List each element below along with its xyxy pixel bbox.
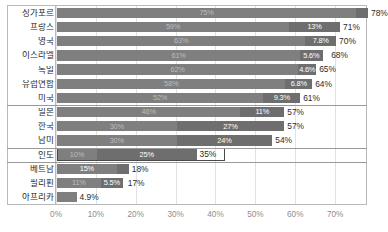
bar-area: 59%13%71% — [57, 20, 367, 34]
chart-row: 프랑스59%13%71% — [7, 20, 367, 34]
segment-2-value: 25% — [140, 151, 154, 158]
segment-1-value: 15% — [80, 165, 94, 172]
bar-segment-2: 27% — [177, 121, 285, 131]
stacked-bar[interactable]: 52%9.3% — [57, 93, 300, 103]
stacked-bar[interactable]: 75% — [57, 8, 368, 18]
bar-segment-2: 5.5% — [101, 178, 123, 188]
stacked-bar[interactable]: 30%24% — [57, 135, 272, 145]
segment-1-value: 63% — [174, 37, 188, 44]
segment-2-value: 24% — [217, 137, 231, 144]
row-total-value: 78% — [371, 9, 388, 17]
segment-1-value: 58% — [164, 80, 178, 87]
bar-segment-1: 30% — [57, 135, 177, 145]
bar-segment-1: 61% — [57, 50, 300, 60]
segment-2-value: 11% — [256, 108, 270, 115]
row-label-10: 인도 — [7, 151, 57, 160]
stacked-bar[interactable]: 61%5.6% — [57, 50, 328, 60]
row-total-value: 18% — [132, 165, 149, 173]
row-label-8: 한국 — [7, 122, 57, 131]
bar-segment-2: 24% — [177, 135, 273, 145]
chart-row: 이스라엘61%5.6%68% — [7, 49, 367, 63]
x-tick-70: 70% — [327, 211, 343, 219]
stacked-bar[interactable]: 46%11% — [57, 107, 284, 117]
row-label-13: 아프리카 — [7, 193, 57, 202]
bar-segment-1: 10% — [57, 149, 97, 159]
bar-area: 4.9% — [57, 190, 367, 204]
segment-1-value: 61% — [172, 52, 186, 59]
stacked-bar[interactable] — [57, 192, 77, 202]
row-label-4: 독일 — [7, 66, 57, 75]
segment-2-value: 6.8% — [291, 80, 307, 87]
row-total-value: 35% — [200, 150, 217, 158]
chart-row: 필리핀11%5.5%17% — [7, 176, 367, 190]
row-total-value: 57% — [287, 108, 304, 116]
segment-1-value: 62% — [171, 66, 185, 73]
stacked-bar[interactable]: 15% — [57, 164, 129, 174]
stacked-bar[interactable]: 30%27% — [57, 121, 284, 131]
bar-segment-1: 52% — [57, 93, 263, 103]
bar-area: 75%78% — [57, 6, 367, 20]
x-tick-30: 30% — [167, 211, 183, 219]
row-total-value: 54% — [275, 136, 292, 144]
stacked-bar[interactable]: 62%4.6% — [57, 64, 316, 74]
bar-area: 30%24%54% — [57, 134, 367, 148]
x-tick-10: 10% — [88, 211, 104, 219]
bar-segment-1: 46% — [57, 107, 240, 117]
chart-row: 독일62%4.6%65% — [7, 63, 367, 77]
bar-segment-2: 4.6% — [298, 64, 316, 74]
bar-segment-1: 30% — [57, 121, 177, 131]
row-label-2: 영국 — [7, 37, 57, 46]
bar-area: 62%4.6%65% — [57, 63, 367, 77]
x-axis: 0%10%20%30%40%50%60%70% — [56, 207, 366, 229]
segment-1-value: 30% — [110, 123, 124, 130]
bar-segment-2 — [356, 8, 368, 18]
segment-1-value: 75% — [199, 9, 213, 16]
group-separator — [7, 148, 367, 149]
chart-row: 한국30%27%57% — [7, 120, 367, 134]
bar-segment-1: 58% — [57, 79, 285, 89]
group-separator — [7, 105, 367, 106]
segment-2-value: 5.6% — [303, 52, 319, 59]
bar-segment-2: 25% — [97, 149, 197, 159]
bar-segment-1: 63% — [57, 36, 305, 46]
stacked-bar[interactable]: 63%7.8% — [57, 36, 336, 46]
stacked-bar[interactable]: 11%5.5% — [57, 178, 125, 188]
chart-row: 싱가포르75%78% — [7, 6, 367, 20]
stacked-bar[interactable]: 10%25% — [57, 149, 197, 159]
row-label-12: 필리핀 — [7, 179, 57, 188]
row-total-value: 57% — [287, 122, 304, 130]
stacked-bar[interactable]: 59%13% — [57, 22, 340, 32]
row-total-value: 70% — [339, 37, 356, 45]
row-total-value: 4.9% — [80, 193, 99, 201]
row-label-5: 유럽연합 — [7, 80, 57, 89]
segment-1-value: 11% — [72, 179, 86, 186]
bar-area: 30%27%57% — [57, 120, 367, 134]
segment-2-value: 13% — [307, 23, 321, 30]
bar-area: 46%11%57% — [57, 105, 367, 119]
row-total-value: 61% — [303, 94, 320, 102]
bar-segment-2: 7.8% — [305, 36, 336, 46]
bar-segment-1: 15% — [57, 164, 117, 174]
bar-area: 15%18% — [57, 162, 367, 176]
segment-2-value: 7.8% — [313, 37, 329, 44]
chart-row: 남미30%24%54% — [7, 134, 367, 148]
bar-segment-1: 59% — [57, 22, 289, 32]
x-tick-0: 0% — [50, 211, 62, 219]
x-tick-40: 40% — [207, 211, 223, 219]
chart-row: 유럽연합58%6.8%64% — [7, 77, 367, 91]
chart-row: 베트남15%18% — [7, 162, 367, 176]
row-total-value: 65% — [319, 65, 336, 73]
bar-segment-2: 6.8% — [285, 79, 312, 89]
chart-row: 미국52%9.3%61% — [7, 91, 367, 105]
bar-area: 11%5.5%17% — [57, 176, 367, 190]
bar-segment-2 — [117, 164, 129, 174]
chart-row: 일본46%11%57% — [7, 105, 367, 119]
x-tick-60: 60% — [287, 211, 303, 219]
bar-segment-2: 5.6% — [300, 50, 322, 60]
bar-area: 10%25%35% — [57, 148, 367, 162]
bar-area: 63%7.8%70% — [57, 34, 367, 48]
bar-segment-2: 13% — [289, 22, 340, 32]
stacked-bar[interactable]: 58%6.8% — [57, 79, 312, 89]
segment-1-value: 30% — [110, 137, 124, 144]
